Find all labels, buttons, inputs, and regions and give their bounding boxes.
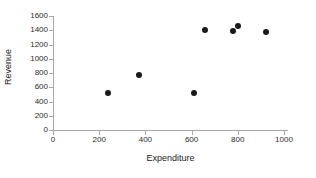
y-axis-tick — [49, 73, 53, 74]
y-axis-tick — [49, 116, 53, 117]
y-axis-tick-label: 200 — [35, 112, 48, 120]
x-axis-tick-label: 400 — [130, 136, 160, 144]
y-axis-tick-label: 1400 — [30, 26, 48, 34]
scatter-chart: 02004006008001000120014001600 0200400600… — [0, 0, 316, 178]
y-axis-tick — [49, 45, 53, 46]
y-axis-tick-label: 800 — [35, 69, 48, 77]
y-axis-tick — [49, 87, 53, 88]
y-axis-tick-label: 400 — [35, 98, 48, 106]
x-axis-tick-label: 0 — [38, 136, 68, 144]
data-point — [230, 28, 236, 34]
data-point — [105, 90, 111, 96]
y-axis-tick — [49, 30, 53, 31]
y-axis-tick-label: 0 — [44, 126, 48, 134]
data-point — [191, 90, 197, 96]
x-axis-tick-label: 600 — [177, 136, 207, 144]
y-axis-line — [53, 16, 54, 131]
data-point — [235, 23, 241, 29]
x-axis-tick-label: 200 — [84, 136, 114, 144]
data-point — [263, 29, 269, 35]
x-axis-line — [53, 130, 288, 131]
y-axis-tick — [49, 59, 53, 60]
plot-area: 02004006008001000120014001600 0200400600… — [0, 0, 316, 178]
x-axis-tick-label: 1000 — [269, 136, 299, 144]
data-point — [202, 27, 208, 33]
x-axis-title: Expenditure — [53, 153, 288, 163]
y-axis-tick-label: 600 — [35, 83, 48, 91]
y-axis-tick-label: 1200 — [30, 41, 48, 49]
y-axis-tick — [49, 102, 53, 103]
data-point — [136, 72, 142, 78]
x-axis-tick-label: 800 — [223, 136, 253, 144]
y-axis-tick — [49, 16, 53, 17]
y-axis-tick-label: 1600 — [30, 12, 48, 20]
y-axis-title: Revenue — [3, 37, 13, 97]
y-axis-tick-label: 1000 — [30, 55, 48, 63]
